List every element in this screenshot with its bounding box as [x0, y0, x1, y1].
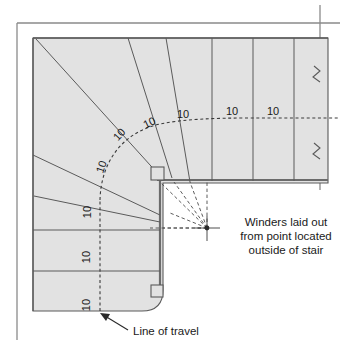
dim-label-10: 10: [81, 206, 93, 218]
newel-post-upper: [151, 167, 164, 180]
dim-label-10: 10: [226, 105, 238, 117]
pivot-note-line-2: from point located: [240, 230, 331, 242]
pivot-note-annotation: Winders laid out from point located outs…: [240, 216, 331, 256]
pivot-note-line-1: Winders laid out: [245, 216, 328, 228]
stair-plan-drawing: 10 10 10 10 10 10 10 10 10 Winders laid …: [0, 0, 347, 346]
dim-label-10: 10: [80, 299, 92, 311]
newel-post-lower: [151, 285, 163, 297]
drawing-canvas: 10 10 10 10 10 10 10 10 10 Winders laid …: [0, 0, 347, 346]
dim-label-10: 10: [80, 251, 92, 263]
dim-label-10: 10: [267, 105, 279, 117]
dim-label-10: 10: [177, 108, 189, 120]
pivot-note-line-3: outside of stair: [249, 244, 324, 256]
line-of-travel-label: Line of travel: [133, 325, 199, 337]
